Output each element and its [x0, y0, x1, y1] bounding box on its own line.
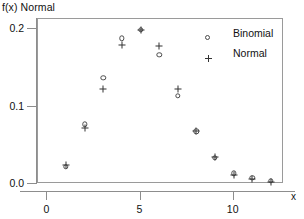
x-tick-mark	[140, 191, 141, 200]
data-point-binomial	[119, 36, 124, 41]
data-point-normal	[230, 171, 237, 178]
x-tick-mark	[46, 191, 47, 200]
data-point-normal	[156, 43, 163, 50]
x-tick-label: 10	[227, 203, 239, 215]
y-tick-label: 0.0	[0, 177, 24, 189]
y-axis-title: f(x) Normal	[2, 1, 55, 13]
x-tick-label: 5	[137, 203, 143, 215]
data-point-normal	[193, 127, 200, 134]
data-point-normal	[174, 85, 181, 92]
x-tick-mark	[233, 191, 234, 200]
y-tick-mark	[27, 106, 37, 107]
data-point-binomial	[156, 52, 161, 57]
x-axis-title: x	[291, 191, 296, 202]
y-tick-label: 0.1	[0, 100, 24, 112]
x-tick-label: 0	[43, 203, 49, 215]
x-axis-line	[20, 191, 295, 192]
data-point-normal	[212, 153, 219, 160]
data-point-binomial	[175, 93, 180, 98]
data-point-normal	[118, 42, 125, 49]
data-point-normal	[267, 178, 274, 185]
chart-figure: f(x) Normal x 0.00.10.2 0510 BinomialNor…	[0, 0, 304, 219]
data-point-normal	[81, 125, 88, 132]
data-point-normal	[249, 176, 256, 183]
legend-label: Normal	[233, 47, 267, 59]
legend-plus-icon	[205, 55, 212, 62]
data-point-binomial	[101, 75, 106, 80]
y-tick-label: 0.2	[0, 22, 24, 34]
data-point-normal	[100, 85, 107, 92]
data-point-normal	[137, 26, 144, 33]
plot-area	[37, 18, 283, 183]
data-point-normal	[62, 161, 69, 168]
legend-label: Binomial	[233, 27, 273, 39]
y-tick-mark	[27, 28, 37, 29]
y-tick-mark	[27, 183, 37, 184]
